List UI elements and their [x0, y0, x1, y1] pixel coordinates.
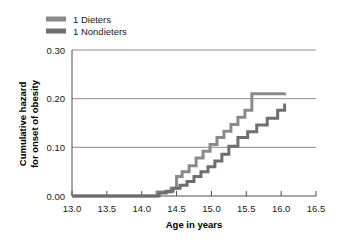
x-tick-label: 15.5: [237, 203, 256, 214]
legend-swatch-dieters: [46, 17, 66, 22]
x-tick-label: 15.0: [202, 203, 221, 214]
x-tick-label: 13.5: [98, 203, 117, 214]
y-axis-title-line1: Cumulative hazard: [17, 82, 28, 167]
x-tick-label: 16.0: [272, 203, 291, 214]
y-tick-label: 0.00: [47, 191, 66, 202]
x-tick-label: 14.0: [132, 203, 151, 214]
x-axis-title: Age in years: [166, 219, 223, 230]
x-tick-label: 16.5: [307, 203, 326, 214]
y-axis-title: Cumulative hazard for onset of obesity: [17, 79, 40, 168]
y-tick-label: 0.20: [47, 93, 66, 104]
x-tick-label: 14.5: [167, 203, 186, 214]
cumulative-hazard-chart: 1 Dieters 1 Nondieters 0.000.100.200.30 …: [0, 0, 339, 248]
chart-svg: 1 Dieters 1 Nondieters 0.000.100.200.30 …: [0, 0, 339, 248]
legend-label-dieters: 1 Dieters: [73, 14, 111, 25]
y-axis-title-line2: for onset of obesity: [29, 79, 40, 168]
x-tick-label: 13.0: [63, 203, 82, 214]
y-tick-label: 0.10: [47, 142, 66, 153]
y-tick-label: 0.30: [47, 45, 66, 56]
legend-swatch-nondieters: [46, 29, 66, 34]
legend-label-nondieters: 1 Nondieters: [73, 26, 127, 37]
